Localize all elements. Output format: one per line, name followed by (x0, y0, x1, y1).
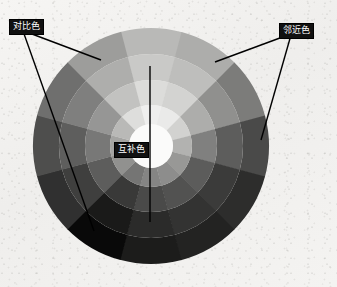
figure-canvas: 对比色 邻近色 互补色 (0, 0, 337, 287)
leader-line-adjacent-2 (261, 35, 291, 140)
annotation-label-contrast: 对比色 (9, 19, 44, 35)
wheel-segment-second-ring-1 (127, 54, 175, 82)
annotation-label-adjacent: 邻近色 (279, 23, 314, 39)
annotation-label-complement: 互补色 (114, 142, 149, 158)
wheel-segment-outer-ring-7 (120, 235, 182, 264)
wheel-segment-second-ring-7 (127, 210, 175, 238)
wheel-segment-second-ring-4 (215, 122, 243, 170)
wheel-segment-outer-ring-10 (33, 115, 62, 177)
color-wheel-diagram (0, 0, 337, 287)
leader-line-adjacent-1 (215, 35, 288, 62)
wheel-segment-outer-ring-1 (120, 28, 182, 57)
wheel-segment-outer-ring-4 (240, 115, 269, 177)
